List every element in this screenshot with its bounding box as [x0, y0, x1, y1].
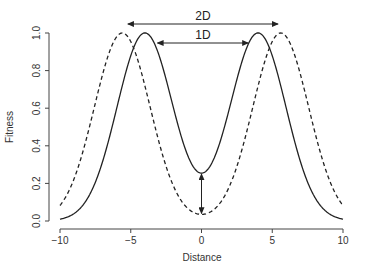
- y-tick-label: 0.2: [31, 176, 42, 190]
- annotation-label-2d: 2D: [195, 9, 211, 23]
- x-tick-label: 0: [199, 235, 205, 246]
- fitness-distance-chart: 0.00.20.40.60.81.0 −10−50510 2D1D Fitnes…: [0, 0, 365, 270]
- x-tick-label: 10: [337, 235, 349, 246]
- x-axis-title: Distance: [183, 252, 222, 263]
- annotations: 2D1D: [128, 9, 278, 213]
- x-tick-label: 5: [269, 235, 275, 246]
- y-axis: 0.00.20.40.60.81.0: [31, 26, 49, 228]
- y-tick-label: 1.0: [31, 26, 42, 40]
- x-tick-label: −10: [52, 235, 69, 246]
- y-tick-label: 0.8: [31, 63, 42, 77]
- x-axis: −10−50510: [52, 229, 349, 246]
- y-tick-label: 0.6: [31, 101, 42, 115]
- y-tick-label: 0.4: [31, 138, 42, 152]
- x-tick-label: −5: [125, 235, 137, 246]
- y-tick-label: 0.0: [31, 214, 42, 228]
- y-axis-title: Fitness: [4, 111, 15, 143]
- annotation-label-1d: 1D: [195, 28, 211, 42]
